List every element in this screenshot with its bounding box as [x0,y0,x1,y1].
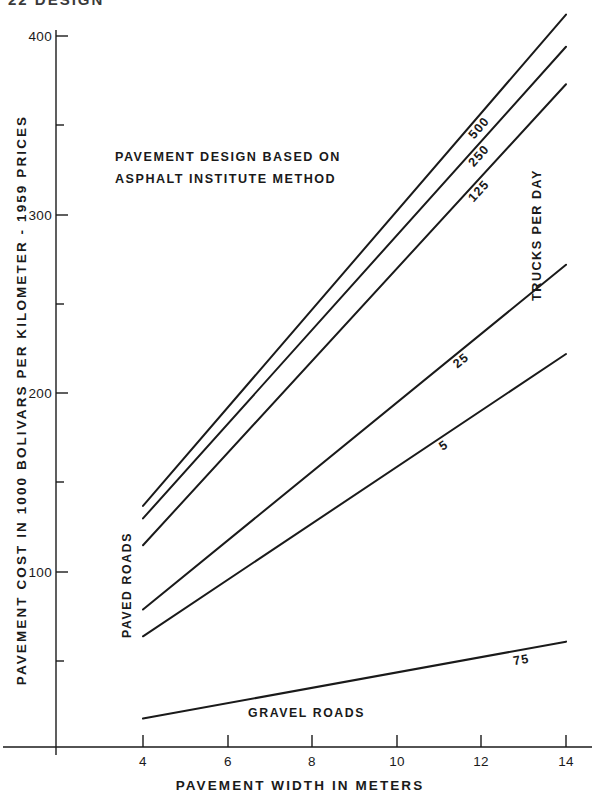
data-line-250 [143,47,566,519]
chart-canvas: 400 300 200 100 4 6 8 10 12 14 PAVEMENT … [0,0,597,795]
y-axis-title: PAVEMENT COST IN 1000 BOLIVARS PER KILOM… [14,115,29,685]
x-axis-title: PAVEMENT WIDTH IN METERS [176,778,425,793]
curve-label-500: 500 [466,114,492,142]
figure-container: 22 DESIGN 400 300 200 100 [0,0,597,795]
chart-annotation: PAVEMENT DESIGN BASED ON ASPHALT INSTITU… [115,150,341,186]
curve-label-75: 75 [512,652,530,669]
legend-title: TRUCKS PER DAY [530,169,544,301]
curve-label-5: 5 [436,437,451,453]
curve-label-250: 250 [466,142,493,169]
y-tick-label: 100 [29,565,52,580]
x-tick-label: 14 [558,754,574,769]
curve-labels-group: 50025012525575 [436,114,530,668]
x-tick-label: 10 [389,754,405,769]
x-axis-ticks [143,735,566,747]
x-tick-label: 12 [473,754,489,769]
data-series-group [143,15,566,719]
data-line-5 [143,354,566,636]
annotation-line-2: ASPHALT INSTITUTE METHOD [115,172,336,186]
x-tick-label: 4 [139,754,147,769]
annotation-line-1: PAVEMENT DESIGN BASED ON [115,150,341,164]
curve-label-25: 25 [450,350,471,371]
y-tick-label: 200 [29,386,52,401]
data-line-500 [143,15,566,506]
x-tick-label: 6 [224,754,232,769]
data-line-25 [143,265,566,610]
x-axis-tick-labels: 4 6 8 10 12 14 [139,754,574,769]
y-axis-ticks [56,36,68,661]
y-tick-label: 400 [29,29,52,44]
group-label-paved: PAVED ROADS [120,532,134,638]
x-tick-label: 8 [308,754,316,769]
y-tick-label: 300 [29,208,52,223]
group-label-gravel: GRAVEL ROADS [248,706,365,720]
y-axis-tick-labels: 400 300 200 100 [29,29,52,580]
curve-label-125: 125 [465,177,492,204]
